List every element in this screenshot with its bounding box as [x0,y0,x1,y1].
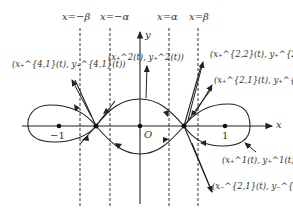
label-right-lower: (x₋^{2,1}(t), y₋^{2,1}(t)) [212,182,293,191]
label-right-upper2: (x₊^{2,1}(t), y₊^{2,1}(t)) [214,76,293,85]
tick-neg-one: −1 [50,131,65,141]
x-axis-label: x [276,120,282,130]
label-x-alpha: x=α [157,12,178,22]
label-center-top: (x₊^2(t), y₊^2(t)) [108,53,184,62]
tick-one: 1 [222,131,228,141]
origin-label: O [144,130,152,140]
label-right-upper1: (x₊^{2,2}(t), y₊^{2,2}(t)) [210,50,293,59]
label-x-neg-beta: x=−β [62,12,90,22]
label-right-mid: (x₊^1(t), y₊^1(t)) [222,156,293,165]
label-x-beta: x=β [189,12,209,22]
label-x-neg-alpha: x=−α [100,12,129,22]
right-loop [184,104,250,146]
y-axis-label: y [145,30,151,40]
